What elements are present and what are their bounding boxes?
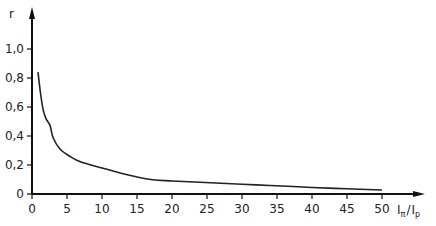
y-tick-label: 0,6 [5, 100, 24, 114]
chart: 0510152025303540455000,20,40,60,81,0 r I… [0, 0, 436, 226]
x-axis-title-sub2: p [415, 210, 420, 219]
y-tick-label: 0,2 [5, 158, 24, 172]
x-tick-label: 40 [304, 202, 319, 216]
y-tick-label: 0 [16, 187, 24, 201]
ticks: 0510152025303540455000,20,40,60,81,0 [5, 42, 390, 216]
x-tick-label: 15 [129, 202, 144, 216]
y-tick-label: 0,4 [5, 129, 24, 143]
axes [29, 7, 425, 197]
series-line-r [38, 72, 382, 190]
y-axis-arrow [29, 7, 35, 19]
y-tick-label: 0,8 [5, 71, 24, 85]
x-tick-label: 30 [234, 202, 249, 216]
x-tick-label: 10 [94, 202, 109, 216]
y-axis-title: r [9, 7, 14, 21]
x-tick-label: 35 [269, 202, 284, 216]
x-tick-label: 0 [28, 202, 36, 216]
x-tick-label: 20 [164, 202, 179, 216]
x-tick-label: 25 [199, 202, 214, 216]
x-tick-label: 50 [374, 202, 389, 216]
x-axis-title: Iπ/Ip [397, 203, 420, 219]
y-tick-label: 1,0 [5, 42, 24, 56]
x-axis-title-sub1: π [401, 210, 406, 219]
x-axis-arrow [413, 191, 425, 197]
x-tick-label: 5 [63, 202, 71, 216]
x-tick-label: 45 [339, 202, 354, 216]
series [38, 72, 382, 190]
